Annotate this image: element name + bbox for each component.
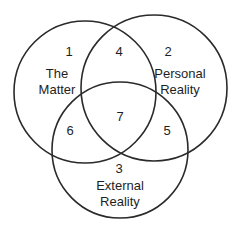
region-1-label-line2: Matter	[39, 82, 76, 98]
region-6-number: 6	[66, 123, 73, 139]
region-3-label-line2: Reality	[96, 194, 144, 210]
region-5-number: 5	[163, 123, 170, 139]
region-2-label-line1: Personal	[154, 66, 205, 82]
region-7-number: 7	[116, 109, 123, 125]
venn-diagram: 1 The Matter 2 Personal Reality 3 Extern…	[0, 0, 238, 242]
region-3-label: External Reality	[96, 178, 144, 210]
region-1-number: 1	[65, 44, 72, 60]
region-3-number: 3	[115, 161, 122, 177]
region-2-number: 2	[164, 44, 171, 60]
region-1-label-line1: The	[39, 66, 76, 82]
region-2-label: Personal Reality	[154, 66, 205, 98]
region-4-number: 4	[115, 44, 122, 60]
region-3-label-line1: External	[96, 178, 144, 194]
region-2-label-line2: Reality	[154, 82, 205, 98]
region-1-label: The Matter	[39, 66, 76, 98]
